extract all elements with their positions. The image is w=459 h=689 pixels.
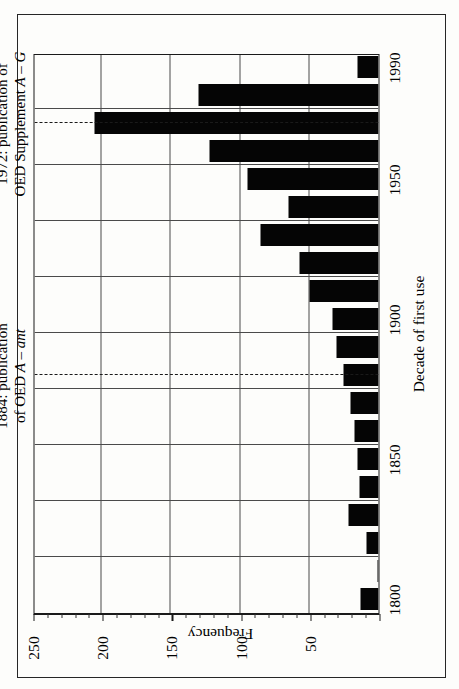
value-gridline-100	[239, 55, 240, 613]
bar-1830	[348, 504, 378, 526]
value-tick-label-100: 100	[232, 636, 250, 660]
value-tick-150	[171, 614, 172, 621]
value-tick-20	[351, 614, 352, 618]
value-tick-40	[324, 614, 325, 618]
category-tick-label-1850: 1850	[385, 445, 403, 476]
bar-1900	[332, 308, 378, 330]
bar-1930	[260, 224, 378, 246]
value-tick-label-150: 150	[162, 636, 180, 660]
value-tick-70	[282, 614, 283, 618]
value-tick-30	[337, 614, 338, 618]
bar-1840	[359, 476, 378, 498]
category-gridline-1880	[34, 388, 378, 389]
bar-1910	[309, 280, 378, 302]
bar-1920	[299, 252, 378, 274]
page-canvas: Frequency 50100150200250 Decade of first…	[0, 0, 459, 689]
bar-1970	[94, 112, 378, 134]
category-tick-label-1900: 1900	[385, 305, 403, 336]
annotation-line-oed-1884	[34, 374, 378, 375]
value-tick-240	[47, 614, 48, 618]
category-axis: Decade of first use 18001850190019501990	[379, 54, 437, 614]
value-gridline-200	[100, 55, 101, 613]
value-tick-100	[241, 614, 242, 621]
bar-1950	[247, 168, 378, 190]
value-tick-90	[254, 614, 255, 618]
value-tick-170	[144, 614, 145, 618]
category-gridline-1980	[34, 108, 378, 109]
annotation-line1: 1972: publication of	[0, 31, 11, 217]
category-gridline-1920	[34, 276, 378, 277]
value-tick-160	[158, 614, 159, 618]
bar-1880	[343, 364, 378, 386]
bar-1940	[288, 196, 378, 218]
annotation-line-oed-supplement-1972	[34, 122, 378, 123]
value-tick-250	[33, 614, 34, 621]
value-tick-0	[379, 614, 380, 621]
category-gridline-1900	[34, 332, 378, 333]
category-axis-title: Decade of first use	[409, 276, 427, 393]
bar-1870	[350, 392, 378, 414]
annotation-line1: 1884: publication	[0, 283, 11, 469]
value-tick-220	[75, 614, 76, 618]
category-tick-label-1800: 1800	[385, 585, 403, 616]
bar-1800	[360, 588, 378, 610]
category-tick-label-1950: 1950	[385, 165, 403, 196]
value-tick-200	[102, 614, 103, 621]
annotation-line2: of OED A – ant	[11, 283, 29, 469]
bar-1990	[357, 56, 378, 78]
page-frame: Frequency 50100150200250 Decade of first…	[17, 14, 446, 678]
value-tick-label-50: 50	[301, 636, 319, 652]
category-gridline-1840	[34, 500, 378, 501]
value-tick-50	[310, 614, 311, 621]
category-gridline-1940	[34, 220, 378, 221]
bar-1890	[336, 336, 378, 358]
category-tick-label-1990: 1990	[385, 53, 403, 84]
value-tick-80	[268, 614, 269, 618]
value-tick-60	[296, 614, 297, 618]
bar-1860	[354, 420, 378, 442]
bar-1850	[357, 448, 378, 470]
value-tick-110	[227, 614, 228, 618]
bar-1820	[366, 532, 378, 554]
category-gridline-1960	[34, 164, 378, 165]
value-tick-130	[199, 614, 200, 618]
bar-1960	[209, 140, 378, 162]
value-tick-180	[130, 614, 131, 618]
rotated-figure-wrapper: Frequency 50100150200250 Decade of first…	[19, 16, 444, 676]
category-gridline-1860	[34, 444, 378, 445]
value-tick-label-200: 200	[93, 636, 111, 660]
value-tick-120	[213, 614, 214, 618]
value-tick-label-250: 250	[24, 636, 42, 660]
value-tick-230	[61, 614, 62, 618]
annotation-line2: OED Supplement A – G	[11, 31, 29, 217]
value-gridline-50	[308, 55, 309, 613]
value-axis-line	[33, 614, 379, 615]
value-tick-10	[365, 614, 366, 618]
bar-1810	[377, 560, 379, 582]
annotation-caption-oed-supplement-1972: 1972: publication ofOED Supplement A – G	[0, 31, 28, 217]
category-gridline-1820	[34, 556, 378, 557]
value-gridline-150	[169, 55, 170, 613]
value-axis: Frequency 50100150200250	[33, 614, 379, 632]
bar-1980	[198, 84, 378, 106]
value-tick-190	[116, 614, 117, 618]
bar-chart: Frequency 50100150200250 Decade of first…	[19, 16, 444, 676]
annotation-caption-oed-1884: 1884: publicationof OED A – ant	[0, 283, 28, 469]
plot-area	[33, 54, 379, 614]
value-tick-140	[185, 614, 186, 618]
value-tick-210	[88, 614, 89, 618]
